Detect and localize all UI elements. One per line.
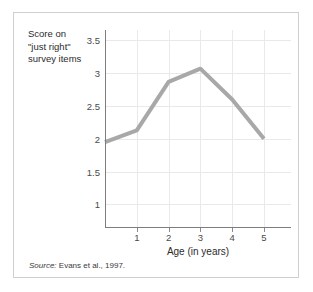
figure-root: Score on "just right" survey items 11.52…	[0, 0, 313, 292]
x-tick-label: 4	[222, 232, 242, 243]
x-tick-mark	[232, 228, 233, 232]
source-citation: Evans et al., 1997.	[57, 261, 126, 270]
x-tick-mark	[137, 228, 138, 232]
x-tick-mark	[200, 228, 201, 232]
x-tick-mark	[169, 228, 170, 232]
x-tick-mark	[264, 228, 265, 232]
source-note: Source: Evans et al., 1997.	[29, 261, 125, 270]
x-tick-label: 1	[127, 232, 147, 243]
x-tick-label: 3	[190, 232, 210, 243]
x-tick-label: 2	[159, 232, 179, 243]
x-tick-label: 5	[254, 232, 274, 243]
x-axis-title: Age (in years)	[105, 246, 291, 257]
source-label: Source:	[29, 261, 57, 270]
